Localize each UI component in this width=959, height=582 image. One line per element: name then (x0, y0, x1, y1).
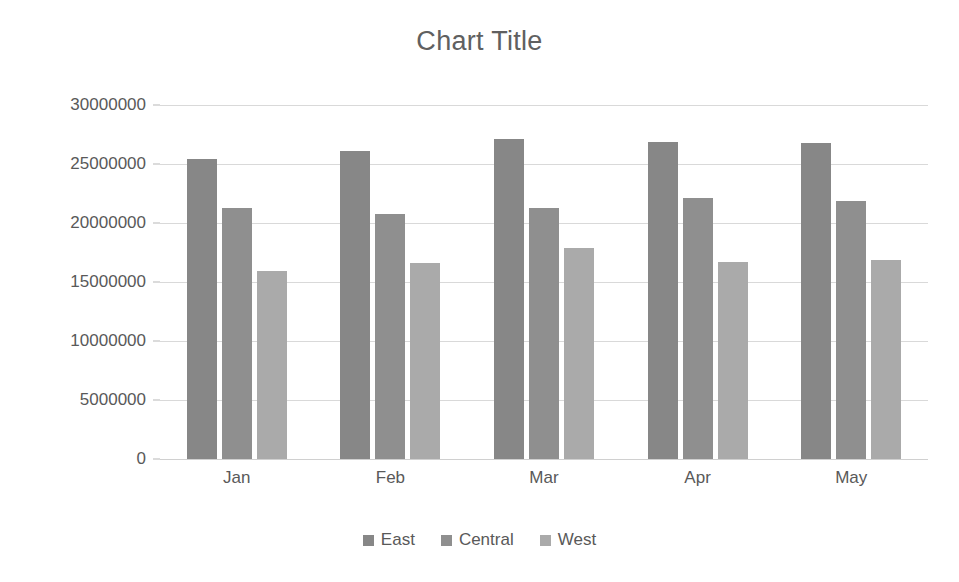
legend-swatch-icon (441, 535, 452, 546)
chart-legend[interactable]: EastCentralWest (0, 530, 959, 550)
bar-west-mar[interactable] (564, 248, 594, 459)
y-tick-label: 20000000 (70, 213, 146, 233)
x-tick-label-feb: Feb (376, 468, 405, 488)
bar-west-feb[interactable] (410, 263, 440, 459)
y-tick-label: 30000000 (70, 95, 146, 115)
legend-swatch-icon (540, 535, 551, 546)
legend-item-west[interactable]: West (540, 530, 596, 550)
legend-item-east[interactable]: East (363, 530, 415, 550)
bar-east-feb[interactable] (340, 151, 370, 459)
bar-central-mar[interactable] (529, 208, 559, 459)
bar-west-apr[interactable] (718, 262, 748, 459)
bar-group (160, 105, 314, 459)
y-axis: 3000000025000000200000001500000010000000… (0, 105, 146, 459)
chart-canvas[interactable]: Chart Title 3000000025000000200000001500… (0, 0, 959, 582)
y-tick-mark (153, 341, 160, 342)
x-tick-label-mar: Mar (529, 468, 558, 488)
y-tick-label: 10000000 (70, 331, 146, 351)
y-tick-mark (153, 400, 160, 401)
bar-east-may[interactable] (801, 143, 831, 459)
legend-label: Central (459, 530, 514, 550)
bar-central-jan[interactable] (222, 208, 252, 459)
x-axis: JanFebMarAprMay (160, 468, 928, 494)
y-tick-mark (153, 459, 160, 460)
bar-series-container (160, 105, 928, 459)
bar-group (774, 105, 928, 459)
bar-central-may[interactable] (836, 201, 866, 459)
y-tick-mark (153, 164, 160, 165)
x-tick-label-may: May (835, 468, 867, 488)
y-tick-mark (153, 105, 160, 106)
gridline (160, 459, 928, 460)
bar-east-jan[interactable] (187, 159, 217, 459)
x-tick-label-jan: Jan (223, 468, 250, 488)
bar-east-mar[interactable] (494, 139, 524, 459)
bar-group (621, 105, 775, 459)
bar-west-may[interactable] (871, 260, 901, 459)
bar-group (314, 105, 468, 459)
y-tick-label: 15000000 (70, 272, 146, 292)
legend-label: East (381, 530, 415, 550)
x-tick-label-apr: Apr (684, 468, 710, 488)
y-tick-label: 5000000 (80, 390, 146, 410)
y-tick-label: 0 (137, 449, 146, 469)
y-tick-mark (153, 282, 160, 283)
bar-central-apr[interactable] (683, 198, 713, 459)
bar-west-jan[interactable] (257, 271, 287, 459)
legend-swatch-icon (363, 535, 374, 546)
bar-group (467, 105, 621, 459)
bar-east-apr[interactable] (648, 142, 678, 459)
y-tick-mark (153, 223, 160, 224)
chart-title[interactable]: Chart Title (0, 26, 959, 57)
bar-central-feb[interactable] (375, 214, 405, 459)
legend-item-central[interactable]: Central (441, 530, 514, 550)
y-tick-label: 25000000 (70, 154, 146, 174)
legend-label: West (558, 530, 596, 550)
